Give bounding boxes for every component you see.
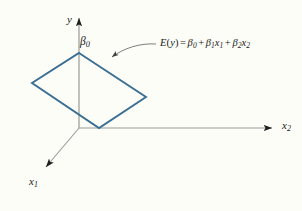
equation-leader-line [112,44,156,57]
axis-x1-line [46,128,79,167]
axis-x2-label: x2 [282,120,291,133]
regression-equation-label: E(y)=β0+β1x1+β2x2 [160,38,250,50]
axis-x1-label: x1 [29,176,38,189]
regression-plane [32,53,146,128]
axis-y-label: y [67,14,72,25]
diagram-canvas [0,0,302,211]
intercept-beta0-label: β0 [80,36,90,50]
